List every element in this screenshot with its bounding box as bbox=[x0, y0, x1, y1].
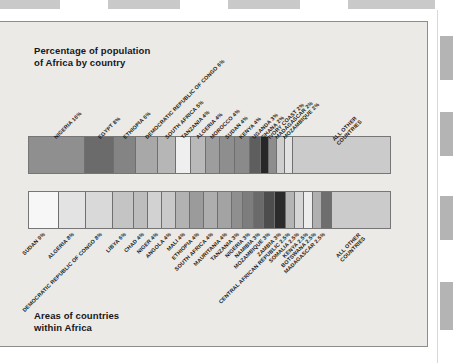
tick-label: TANZANIA 3% bbox=[209, 231, 240, 262]
bar-segment bbox=[29, 192, 59, 228]
tick-label: ZAMBIA 3% bbox=[256, 231, 282, 257]
scan-edge-tab bbox=[440, 36, 453, 80]
tick-label: SOMALIA 2.5% bbox=[268, 231, 301, 264]
tick-label: IVORY COAST 2% bbox=[267, 102, 305, 140]
bar-segment bbox=[162, 192, 176, 228]
scan-edge-tab bbox=[440, 112, 453, 156]
bar-segment bbox=[232, 192, 243, 228]
tick-label: SUDAN 9% bbox=[21, 231, 46, 256]
tick-label: SOUTH AFRICA 5% bbox=[164, 99, 205, 140]
tick-label: MALI 4% bbox=[166, 231, 187, 252]
scan-top-strip bbox=[0, 0, 453, 9]
tick-label: CENTRAL AFRICAN REPUBLIC 2.5% bbox=[218, 231, 292, 305]
bar-segment bbox=[158, 137, 176, 173]
bar-segment bbox=[114, 137, 136, 173]
bar-segment bbox=[293, 137, 390, 173]
bar-segment bbox=[313, 192, 322, 228]
scan-edge-tab bbox=[440, 282, 453, 330]
tick-label: BOTSWANA 2.5% bbox=[280, 231, 317, 268]
bar-segment bbox=[286, 192, 295, 228]
area-tick-label-group: SUDAN 9%ALGERIA 8%DEMOCRATIC REPUBLIC OF… bbox=[0, 22, 429, 348]
bar-segment bbox=[235, 137, 250, 173]
tick-label: MAURITANIA 4% bbox=[192, 231, 228, 267]
bar-segment bbox=[295, 192, 304, 228]
bar-segment bbox=[277, 137, 285, 173]
tick-label: DEMOCRATIC REPUBLIC OF CONGO 6% bbox=[144, 58, 226, 140]
bar-segment bbox=[285, 137, 293, 173]
bar-segment bbox=[206, 137, 221, 173]
page-title: Percentage of population of Africa by co… bbox=[34, 45, 150, 69]
scan-right-rule bbox=[437, 10, 438, 363]
scan-strip-gap bbox=[180, 0, 228, 9]
tick-label: ETHIOPIA 4% bbox=[171, 231, 201, 261]
bar-segment bbox=[59, 192, 86, 228]
scan-edge-tab bbox=[440, 196, 453, 240]
bar-segment bbox=[243, 192, 254, 228]
bar-segment bbox=[269, 137, 277, 173]
tick-label: KENYA 2.5% bbox=[281, 231, 309, 259]
tick-label: MADAGASCAR 2% bbox=[274, 100, 314, 140]
tick-label: ALL OTHER COUNTRIES bbox=[334, 231, 366, 263]
bar-segment bbox=[254, 192, 265, 228]
section-title-areas: Areas of countries within Africa bbox=[34, 310, 119, 334]
bar-segment bbox=[148, 192, 162, 228]
tick-label: LIBYA 6% bbox=[105, 231, 128, 254]
bar-segment bbox=[176, 137, 191, 173]
tick-label: MOZAMBIQUE 3% bbox=[233, 231, 272, 270]
scan-strip-gap bbox=[300, 0, 348, 9]
population-stacked-bar bbox=[28, 136, 391, 174]
tick-label: MADAGASCAR 2.5% bbox=[283, 231, 327, 275]
tick-label: MOZAMBIQUE 2% bbox=[281, 101, 320, 140]
bar-segment bbox=[264, 192, 275, 228]
tick-label: ALGERIA 8% bbox=[47, 231, 76, 260]
bar-segment bbox=[304, 192, 313, 228]
bar-segment bbox=[275, 192, 286, 228]
tick-label: DEMOCRATIC REPUBLIC OF CONGO 8% bbox=[21, 231, 103, 313]
bar-segment bbox=[86, 192, 113, 228]
bar-segment bbox=[29, 137, 85, 173]
tick-label: SOUTH AFRICA 4% bbox=[173, 231, 214, 272]
bar-segment bbox=[113, 192, 134, 228]
scan-strip-gap bbox=[60, 0, 108, 9]
tick-label: CHAD 4% bbox=[122, 231, 145, 254]
tick-label: NIGERIA 3% bbox=[223, 231, 251, 259]
bar-segment bbox=[191, 137, 206, 173]
bar-segment bbox=[261, 137, 269, 173]
bar-segment bbox=[190, 192, 204, 228]
bar-segment bbox=[176, 192, 190, 228]
tick-label: ANGOLA 4% bbox=[145, 231, 173, 259]
bar-segment bbox=[332, 192, 391, 228]
tick-label: NAMIBIA 3% bbox=[233, 231, 261, 259]
scanned-page-backdrop: Percentage of population of Africa by co… bbox=[0, 0, 453, 363]
bar-segment bbox=[134, 192, 148, 228]
tick-label: NIGER 4% bbox=[135, 231, 159, 255]
population-tick-label-group: NIGERIA 16%EGYPT 8%ETHIOPIA 6%DEMOCRATIC… bbox=[0, 22, 429, 348]
infographic-page: Percentage of population of Africa by co… bbox=[0, 21, 428, 347]
bar-segment bbox=[250, 137, 261, 173]
bar-segment bbox=[218, 192, 232, 228]
area-stacked-bar bbox=[28, 191, 391, 229]
bar-segment bbox=[85, 137, 114, 173]
bar-segment bbox=[136, 137, 158, 173]
bar-segment bbox=[322, 192, 331, 228]
bar-segment bbox=[204, 192, 218, 228]
bar-segment bbox=[220, 137, 235, 173]
